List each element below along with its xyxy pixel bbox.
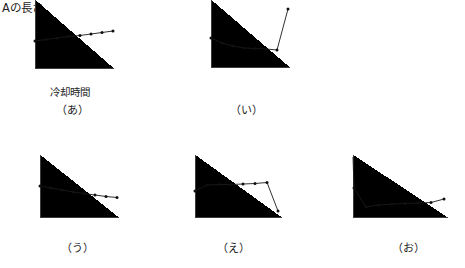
chart-e-svg	[190, 155, 290, 231]
caption-e: （え）	[203, 242, 263, 255]
chart-panel-e	[190, 155, 290, 231]
chart-i-svg	[206, 0, 301, 76]
chart-panel-u	[35, 155, 130, 231]
caption-u: （う）	[47, 242, 107, 255]
y-axis-title: Aの長さ	[2, 2, 22, 15]
chart-u-axes	[41, 155, 120, 218]
chart-e-axes	[196, 155, 283, 218]
graph-choice-figure: Aの長さ 冷却時間 （あ）	[0, 0, 465, 268]
chart-o-svg	[348, 155, 458, 231]
chart-u-svg	[35, 155, 130, 231]
caption-i: （い）	[216, 104, 276, 117]
chart-o-axes	[354, 155, 449, 218]
caption-o: （お）	[378, 242, 438, 255]
chart-panel-o	[348, 155, 458, 231]
chart-a-svg	[30, 0, 125, 76]
chart-panel-a	[30, 0, 125, 76]
caption-a: （あ）	[42, 104, 102, 117]
x-axis-title: 冷却時間	[50, 86, 90, 98]
chart-i-axes	[212, 0, 291, 68]
chart-panel-i	[206, 0, 301, 76]
chart-a-axes	[36, 0, 115, 69]
